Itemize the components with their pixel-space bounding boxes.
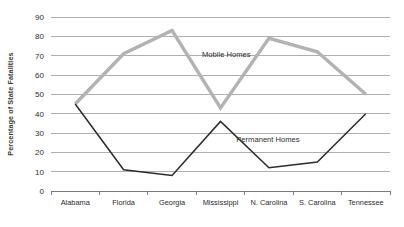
y-tick-label: 10 (35, 168, 44, 177)
y-tick-label: 60 (35, 71, 44, 80)
series-label-mobile-homes: Mobile Homes (202, 50, 251, 59)
x-tick-label: S. Carolina (299, 198, 336, 207)
x-tick-label: Florida (112, 198, 135, 207)
series-line-mobile-homes (75, 31, 366, 108)
gridlines (51, 17, 390, 172)
y-tick-label: 50 (35, 90, 44, 99)
x-tick-label: Georgia (159, 198, 186, 207)
x-tick-label: Alabama (61, 198, 91, 207)
y-tick-label: 80 (35, 32, 44, 41)
y-axis-tick-labels: 0102030405060708090 (35, 13, 44, 196)
y-tick-label: 40 (35, 110, 44, 119)
y-tick-label: 70 (35, 52, 44, 61)
y-tick-label: 90 (35, 13, 44, 22)
chart-canvas: 0102030405060708090Percentage of State F… (0, 0, 404, 227)
x-axis-tick-labels: AlabamaFloridaGeorgiaMississippiN. Carol… (61, 198, 384, 207)
series-label-permanent-homes: Permanent Homes (236, 135, 300, 144)
series-line-permanent-homes (75, 104, 366, 176)
y-axis-title: Percentage of State Fatalities (6, 52, 15, 155)
x-axis (51, 191, 390, 195)
x-tick-label: Tennessee (348, 198, 384, 207)
x-tick-label: Mississippi (203, 198, 239, 207)
y-tick-label: 20 (35, 148, 44, 157)
line-chart: 0102030405060708090Percentage of State F… (0, 0, 404, 227)
y-tick-label: 0 (40, 187, 45, 196)
y-tick-label: 30 (35, 129, 44, 138)
x-tick-label: N. Carolina (250, 198, 288, 207)
